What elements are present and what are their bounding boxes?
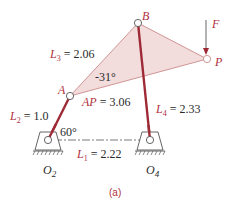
label-B: B	[142, 9, 150, 23]
angle-theta2: 60°	[60, 125, 77, 139]
label-O4: O4	[146, 163, 160, 179]
angle-coupler: -31°	[95, 70, 116, 84]
joint-A	[66, 92, 73, 99]
figure-caption: (a)	[109, 187, 121, 198]
label-A: A	[57, 83, 66, 97]
joint-O4	[146, 136, 153, 143]
dim-L2: L2 = 1.0	[9, 109, 48, 125]
dim-L1: L1 = 2.22	[76, 147, 121, 163]
label-F: F	[211, 17, 220, 31]
dim-AP: AP = 3.06	[81, 95, 130, 109]
dim-L3: L3 = 2.06	[49, 47, 94, 63]
fourbar-linkage-diagram: B F P A L3 = 2.06 -31° AP = 3.06 L2 = 1.…	[0, 0, 233, 209]
joint-P	[203, 55, 210, 62]
force-arrow-F	[203, 20, 209, 55]
dim-L4: L4 = 2.33	[155, 102, 200, 118]
joint-O2	[44, 136, 51, 143]
joint-B	[134, 19, 141, 26]
label-O2: O2	[43, 163, 57, 179]
label-P: P	[214, 55, 223, 69]
